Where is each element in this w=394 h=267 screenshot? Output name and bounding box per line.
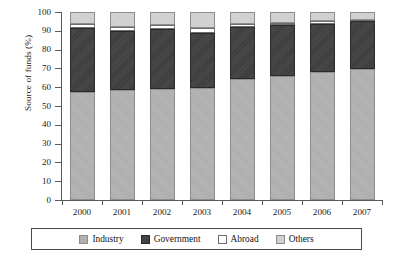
bar-segment-industry[interactable]: [110, 90, 135, 200]
x-tick-label: 2004: [220, 207, 264, 217]
bar-segment-others[interactable]: [270, 12, 295, 23]
bar-segment-abroad[interactable]: [310, 21, 335, 24]
y-tick: 30: [55, 144, 61, 145]
y-tick-mark: [55, 181, 61, 182]
bar-segment-others[interactable]: [310, 12, 335, 21]
bar-segment-government[interactable]: [270, 25, 295, 76]
y-tick-label: 50: [42, 100, 51, 112]
y-tick-label: 10: [42, 175, 51, 187]
legend-swatch-government-icon: [141, 235, 150, 244]
x-tick-mark: [62, 200, 63, 205]
x-axis-line: [55, 200, 382, 201]
y-tick: 90: [55, 31, 61, 32]
x-tick-label: 2007: [340, 207, 384, 217]
plot-area: 0102030405060708090100 20002001200220032…: [62, 12, 382, 200]
y-tick-mark: [55, 31, 61, 32]
y-tick-label: 60: [42, 81, 51, 93]
y-axis-title: Source of funds (%): [23, 0, 33, 153]
bar-2002[interactable]: [150, 12, 175, 200]
y-tick-label: 70: [42, 62, 51, 74]
x-tick-mark: [262, 200, 263, 205]
bar-2001[interactable]: [110, 12, 135, 200]
bar-segment-government[interactable]: [310, 24, 335, 72]
bar-segment-others[interactable]: [70, 12, 95, 24]
legend-label: Others: [289, 234, 314, 244]
x-tick-label: 2002: [140, 207, 184, 217]
y-tick-mark: [55, 144, 61, 145]
legend-label: Industry: [92, 234, 123, 244]
x-tick-mark: [222, 200, 223, 205]
y-tick-mark: [55, 12, 61, 13]
legend-item-abroad[interactable]: Abroad: [218, 234, 259, 244]
bar-segment-industry[interactable]: [230, 79, 255, 200]
bar-segment-government[interactable]: [150, 29, 175, 89]
legend-label: Abroad: [231, 234, 259, 244]
legend-item-government[interactable]: Government: [141, 234, 201, 244]
y-tick-mark: [55, 162, 61, 163]
y-tick-label: 30: [42, 137, 51, 149]
bar-segment-abroad[interactable]: [190, 28, 215, 33]
bar-segment-abroad[interactable]: [350, 19, 375, 21]
bar-segment-others[interactable]: [350, 12, 375, 20]
y-tick-mark: [55, 106, 61, 107]
x-tick-label: 2005: [260, 207, 304, 217]
bar-segment-industry[interactable]: [270, 76, 295, 200]
bar-2003[interactable]: [190, 12, 215, 200]
y-tick: 20: [55, 162, 61, 163]
bar-2006[interactable]: [310, 12, 335, 200]
bar-segment-industry[interactable]: [310, 72, 335, 200]
bar-segment-government[interactable]: [110, 31, 135, 90]
bar-segment-abroad[interactable]: [150, 25, 175, 29]
x-tick-mark: [302, 200, 303, 205]
bar-segment-abroad[interactable]: [230, 24, 255, 27]
bar-segment-government[interactable]: [350, 21, 375, 69]
y-tick: 70: [55, 68, 61, 69]
x-tick-label: 2006: [300, 207, 344, 217]
x-tick-mark: [102, 200, 103, 205]
y-tick-mark: [55, 200, 61, 201]
chart-legend: IndustryGovernmentAbroadOthers: [31, 228, 362, 250]
bar-segment-others[interactable]: [230, 12, 255, 24]
y-tick-mark: [55, 68, 61, 69]
legend-item-industry[interactable]: Industry: [79, 234, 123, 244]
y-tick-mark: [55, 87, 61, 88]
bar-segment-abroad[interactable]: [70, 24, 95, 28]
x-tick-label: 2001: [100, 207, 144, 217]
legend-item-others[interactable]: Others: [276, 234, 314, 244]
y-tick-label: 40: [42, 118, 51, 130]
bar-2004[interactable]: [230, 12, 255, 200]
y-axis-line: [61, 12, 62, 201]
x-tick-mark: [342, 200, 343, 205]
legend-label: Government: [154, 234, 201, 244]
x-tick-mark: [142, 200, 143, 205]
y-tick: 100: [55, 12, 61, 13]
y-tick-mark: [55, 50, 61, 51]
x-tick-mark: [182, 200, 183, 205]
bar-segment-others[interactable]: [110, 12, 135, 27]
bar-segment-industry[interactable]: [150, 89, 175, 200]
y-tick-label: 90: [42, 24, 51, 36]
bar-segment-others[interactable]: [190, 12, 215, 28]
bar-2000[interactable]: [70, 12, 95, 200]
bar-2007[interactable]: [350, 12, 375, 200]
chart-figure: Source of funds (%) 01020304050607080901…: [0, 0, 394, 267]
y-tick: 50: [55, 106, 61, 107]
bar-segment-abroad[interactable]: [270, 23, 295, 25]
y-tick: 0: [55, 200, 61, 201]
bar-segment-abroad[interactable]: [110, 27, 135, 31]
x-tick-mark: [382, 200, 383, 205]
bar-segment-government[interactable]: [230, 27, 255, 79]
legend-swatch-others-icon: [276, 235, 285, 244]
bar-2005[interactable]: [270, 12, 295, 200]
bar-segment-industry[interactable]: [350, 69, 375, 200]
bar-segment-industry[interactable]: [70, 92, 95, 200]
bar-segment-industry[interactable]: [190, 88, 215, 200]
bar-segment-government[interactable]: [70, 28, 95, 92]
y-tick-label: 100: [38, 6, 52, 18]
bar-segment-others[interactable]: [150, 12, 175, 25]
bar-segment-government[interactable]: [190, 33, 215, 88]
x-tick-label: 2000: [60, 207, 104, 217]
y-tick: 80: [55, 50, 61, 51]
y-tick-label: 0: [47, 194, 52, 206]
x-tick-label: 2003: [180, 207, 224, 217]
